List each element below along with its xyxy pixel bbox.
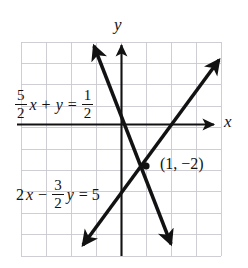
- fraction-numerator: 5: [15, 88, 27, 103]
- plus-operator: +: [39, 97, 54, 113]
- plotted-lines: [83, 46, 219, 245]
- fraction-denominator: 2: [82, 106, 94, 121]
- intersection-point-marker: [142, 162, 149, 169]
- equals-sign: =: [65, 97, 80, 113]
- fraction-five-halves: 5 2: [15, 88, 27, 121]
- fraction-numerator: 1: [82, 88, 94, 103]
- variable-y: y: [55, 97, 64, 113]
- variable-x: x: [29, 97, 38, 113]
- fraction-three-halves: 3 2: [52, 178, 64, 211]
- intersection-point-label: (1, −2): [160, 156, 204, 172]
- coefficient-two: 2: [16, 187, 24, 203]
- fraction-denominator: 2: [15, 106, 27, 121]
- equation-line-1: 5 2 x + y = 1 2: [14, 88, 94, 121]
- fraction-one-half: 1 2: [82, 88, 94, 121]
- axis-lines: [17, 45, 214, 256]
- fraction-numerator: 3: [52, 178, 64, 193]
- graph-figure: y x 5 2 x + y = 1 2 2 x − 3 2 y = 5 (1, …: [0, 0, 248, 268]
- variable-y: y: [66, 187, 75, 203]
- line-2-two-x-minus-three-halves-y: [83, 60, 219, 245]
- equals-sign: =: [76, 187, 91, 203]
- coordinate-plane: [0, 0, 248, 268]
- fraction-denominator: 2: [52, 196, 64, 211]
- equation-line-2: 2 x − 3 2 y = 5: [16, 178, 100, 211]
- x-axis-label: x: [224, 113, 232, 130]
- variable-x: x: [25, 187, 34, 203]
- right-hand-side: 5: [92, 187, 100, 203]
- y-axis-label: y: [114, 16, 122, 33]
- minus-operator: −: [35, 187, 50, 203]
